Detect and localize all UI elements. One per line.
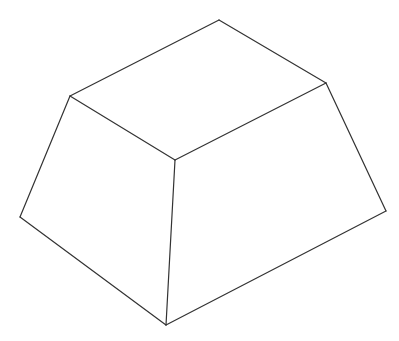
frustum-edges (20, 20, 386, 325)
bottom-front-right-edge (166, 211, 386, 325)
bottom-front-left-edge (20, 217, 166, 325)
top-front-right-edge (175, 83, 326, 160)
top-back-left-edge (70, 20, 219, 96)
left-lateral-edge (20, 96, 70, 217)
frustum-drawing (0, 0, 399, 341)
top-back-right-edge (219, 20, 326, 83)
right-lateral-edge (326, 83, 386, 211)
front-lateral-edge (166, 160, 175, 325)
top-front-left-edge (70, 96, 175, 160)
